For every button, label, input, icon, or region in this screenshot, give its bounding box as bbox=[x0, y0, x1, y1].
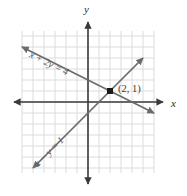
y-axis-label: y bbox=[84, 4, 89, 15]
intersection-point-marker bbox=[107, 88, 113, 94]
x-axis-label: x bbox=[171, 98, 176, 109]
coordinate-plane-figure: x y x + 2y = 4 x − y = 1 (2, 1) bbox=[0, 0, 187, 196]
intersection-point-label: (2, 1) bbox=[118, 84, 141, 95]
graph-canvas bbox=[0, 0, 187, 196]
